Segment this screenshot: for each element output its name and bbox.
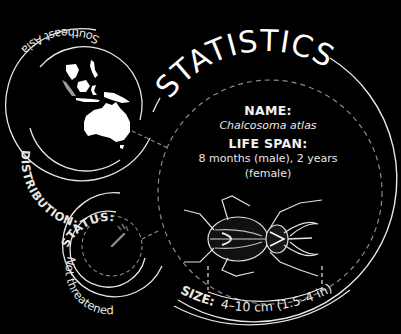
- life-span-label: LIFE SPAN:: [160, 136, 376, 151]
- main-stats-circle: [153, 58, 397, 322]
- distribution-badge: Southeast Asia DISTRIBUTION:: [6, 26, 150, 230]
- status-value: Not threatened: [63, 255, 114, 317]
- main-outer-ring: [178, 58, 397, 322]
- beetle-horn-lower: [284, 242, 318, 256]
- beetle-horn-upper: [284, 222, 318, 236]
- status-badge: STATUS: Not threatened: [58, 193, 162, 318]
- southeast-asia-map-icon: [62, 60, 130, 149]
- life-span-value-line1: 8 months (male), 2 years: [160, 151, 376, 166]
- name-value: Chalcosoma atlas: [160, 118, 376, 133]
- size-value: 4–10 cm (1.5–4 in): [220, 280, 335, 314]
- beetle-horn-center: [288, 238, 312, 239]
- gauge-needle: [112, 234, 124, 246]
- status-connector: [142, 230, 160, 239]
- size-label: SIZE:: [178, 282, 216, 309]
- name-label: NAME:: [160, 103, 376, 118]
- distribution-inner-arc-top: [40, 47, 142, 120]
- atlas-beetle-illustration: [184, 196, 322, 276]
- main-outer-ring-left: [153, 98, 160, 112]
- threat-gauge-icon: [112, 224, 128, 246]
- species-info: NAME: Chalcosoma atlas LIFE SPAN: 8 mont…: [160, 103, 376, 181]
- page-title: STATISTICS: [148, 23, 340, 105]
- life-span-value-line2: (female): [160, 166, 376, 181]
